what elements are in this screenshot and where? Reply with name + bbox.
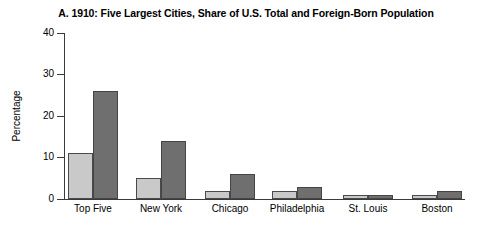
x-axis-label-chicago: Chicago [212,203,249,214]
bar-top-five-series-2 [93,91,118,199]
x-axis-label-top-five: Top Five [74,203,112,214]
x-axis-line [64,199,465,200]
y-tick-20 [57,116,64,117]
y-tick-label-40: 40 [43,28,54,38]
y-tick-10 [57,157,64,158]
y-axis-line [64,33,65,200]
chart-screenshot: A. 1910: Five Largest Cities, Share of U… [0,0,492,226]
bar-philadelphia-series-2 [297,187,322,199]
bar-boston-series-1 [412,195,437,199]
x-axis-label-boston: Boston [421,203,452,214]
bar-st-louis-series-2 [368,195,393,199]
x-axis-label-new-york: New York [140,203,182,214]
y-tick-label-30: 30 [43,69,54,79]
bar-chicago-series-1 [205,191,230,199]
y-tick-0 [57,199,64,200]
bar-new-york-series-2 [161,141,186,199]
y-axis-title: Percentage [11,90,22,141]
bar-chicago-series-2 [230,174,255,199]
y-tick-40 [57,33,64,34]
bar-philadelphia-series-1 [272,191,297,199]
x-axis-label-st-louis: St. Louis [349,203,388,214]
y-tick-label-20: 20 [43,111,54,121]
plot-area: 0 10 20 30 40 Percentage Top FiveNew Yor… [0,0,492,226]
y-tick-30 [57,74,64,75]
bar-boston-series-2 [437,191,462,199]
bar-top-five-series-1 [68,153,93,199]
y-tick-label-0: 0 [48,194,54,204]
bar-new-york-series-1 [136,178,161,199]
x-axis-label-philadelphia: Philadelphia [270,203,325,214]
y-tick-label-10: 10 [43,152,54,162]
bar-st-louis-series-1 [343,195,368,199]
